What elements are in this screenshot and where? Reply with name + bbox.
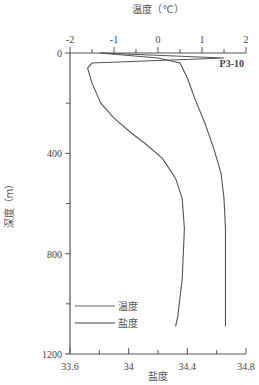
- y-tick-label: 400: [47, 148, 62, 159]
- bottom-axis-label: 盐度: [148, 370, 168, 382]
- top-tick-label: -1: [110, 34, 118, 45]
- bottom-tick-label: 33.6: [61, 361, 79, 372]
- top-tick-label: -2: [66, 34, 74, 45]
- bottom-tick-label: 34: [124, 361, 134, 372]
- chart: -2-101233.63434.434.804008001200温度（℃）盐度深…: [0, 0, 259, 385]
- station-label: P3-10: [220, 58, 244, 69]
- salinity-line: [99, 53, 225, 326]
- y-axis-label: 深度（m）: [3, 179, 15, 229]
- y-tick-label: 800: [47, 249, 62, 260]
- top-tick-label: 2: [244, 34, 249, 45]
- y-tick-label: 0: [57, 48, 62, 59]
- top-tick-label: 1: [200, 34, 205, 45]
- top-tick-label: 0: [156, 34, 161, 45]
- temperature-line: [88, 53, 224, 326]
- legend-salinity-label: 盐度: [118, 317, 138, 329]
- y-tick-label: 1200: [42, 349, 62, 360]
- top-axis-label: 温度（℃）: [132, 3, 183, 15]
- bottom-tick-label: 34.8: [237, 361, 255, 372]
- bottom-tick-label: 34.4: [179, 361, 197, 372]
- legend-temperature-label: 温度: [118, 300, 138, 312]
